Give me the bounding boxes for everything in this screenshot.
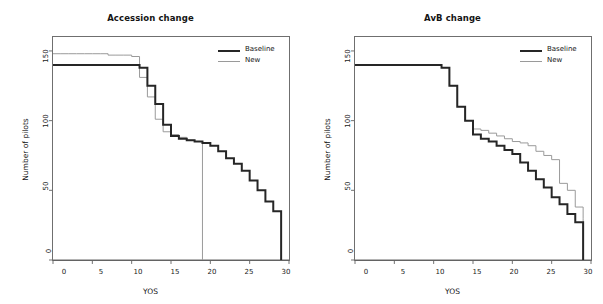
x-axis-label: YOS bbox=[302, 287, 603, 296]
figure-canvas: Accession change 150 100 50 0 0 5 10 15 … bbox=[0, 0, 603, 304]
x-tick-label: 15 bbox=[171, 268, 180, 276]
x-tick-label: 10 bbox=[436, 268, 445, 276]
x-tick-label: 25 bbox=[245, 268, 254, 276]
panel-title: AvB change bbox=[302, 13, 603, 23]
x-tick-label: 30 bbox=[584, 268, 593, 276]
legend-label: New bbox=[547, 56, 562, 64]
plot-lines bbox=[53, 37, 289, 260]
y-tick-label: 100 bbox=[42, 113, 50, 129]
panel-avb-change: AvB change 150 100 50 0 0 5 10 15 20 25 … bbox=[302, 0, 603, 304]
x-tick-label: 20 bbox=[510, 268, 519, 276]
y-axis-label: Number of pilots bbox=[21, 105, 30, 195]
x-tick-label: 15 bbox=[473, 268, 482, 276]
legend-swatch-baseline bbox=[520, 50, 542, 52]
x-tick-label: 10 bbox=[134, 268, 143, 276]
panel-title: Accession change bbox=[0, 13, 301, 23]
x-tick-label: 0 bbox=[364, 268, 368, 276]
y-tick-label: 0 bbox=[45, 243, 53, 259]
x-tick-label: 25 bbox=[547, 268, 556, 276]
y-tick-label: 150 bbox=[344, 48, 352, 64]
legend-label: New bbox=[245, 56, 260, 64]
plot-frame bbox=[354, 36, 592, 261]
x-tick-label: 30 bbox=[282, 268, 291, 276]
x-tick-label: 20 bbox=[208, 268, 217, 276]
y-tick-label: 150 bbox=[42, 48, 50, 64]
y-tick-label: 100 bbox=[344, 113, 352, 129]
y-tick-label: 0 bbox=[347, 243, 355, 259]
x-tick-label: 5 bbox=[99, 268, 103, 276]
y-axis-label: Number of pilots bbox=[323, 105, 332, 195]
y-tick-label: 50 bbox=[42, 178, 50, 194]
y-tick-label: 50 bbox=[344, 178, 352, 194]
panel-accession-change: Accession change 150 100 50 0 0 5 10 15 … bbox=[0, 0, 301, 304]
plot-frame bbox=[52, 36, 290, 261]
legend-swatch-baseline bbox=[218, 50, 240, 52]
legend-label: Baseline bbox=[547, 45, 577, 53]
legend-label: Baseline bbox=[245, 45, 275, 53]
x-axis-label: YOS bbox=[0, 287, 301, 296]
legend-swatch-new bbox=[218, 61, 240, 62]
legend-swatch-new bbox=[520, 61, 542, 62]
plot-lines bbox=[355, 37, 591, 260]
x-tick-label: 0 bbox=[62, 268, 66, 276]
x-tick-label: 5 bbox=[401, 268, 405, 276]
